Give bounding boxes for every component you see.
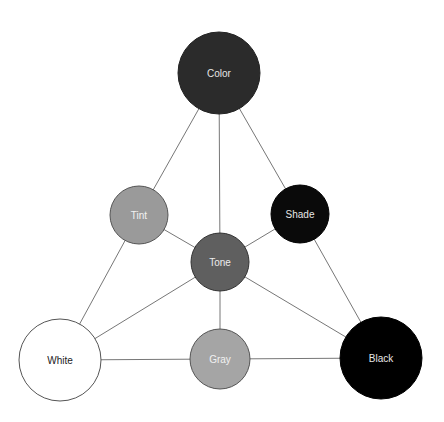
node-label-black: Black: [369, 353, 394, 364]
node-label-white: White: [47, 355, 73, 366]
node-tint: Tint: [110, 186, 168, 244]
node-label-gray: Gray: [209, 354, 231, 365]
nodes: ColorTintShadeToneWhiteGrayBlack: [19, 32, 422, 401]
color-relationship-diagram: ColorTintShadeToneWhiteGrayBlack: [0, 0, 444, 422]
node-color: Color: [178, 32, 260, 114]
node-gray: Gray: [190, 329, 250, 389]
node-label-color: Color: [207, 68, 232, 79]
node-label-tint: Tint: [131, 210, 148, 221]
node-label-tone: Tone: [209, 257, 231, 268]
node-label-shade: Shade: [286, 209, 315, 220]
node-shade: Shade: [271, 185, 329, 243]
node-tone: Tone: [191, 233, 249, 291]
node-black: Black: [340, 317, 422, 399]
node-white: White: [19, 319, 101, 401]
edges: [60, 73, 381, 360]
